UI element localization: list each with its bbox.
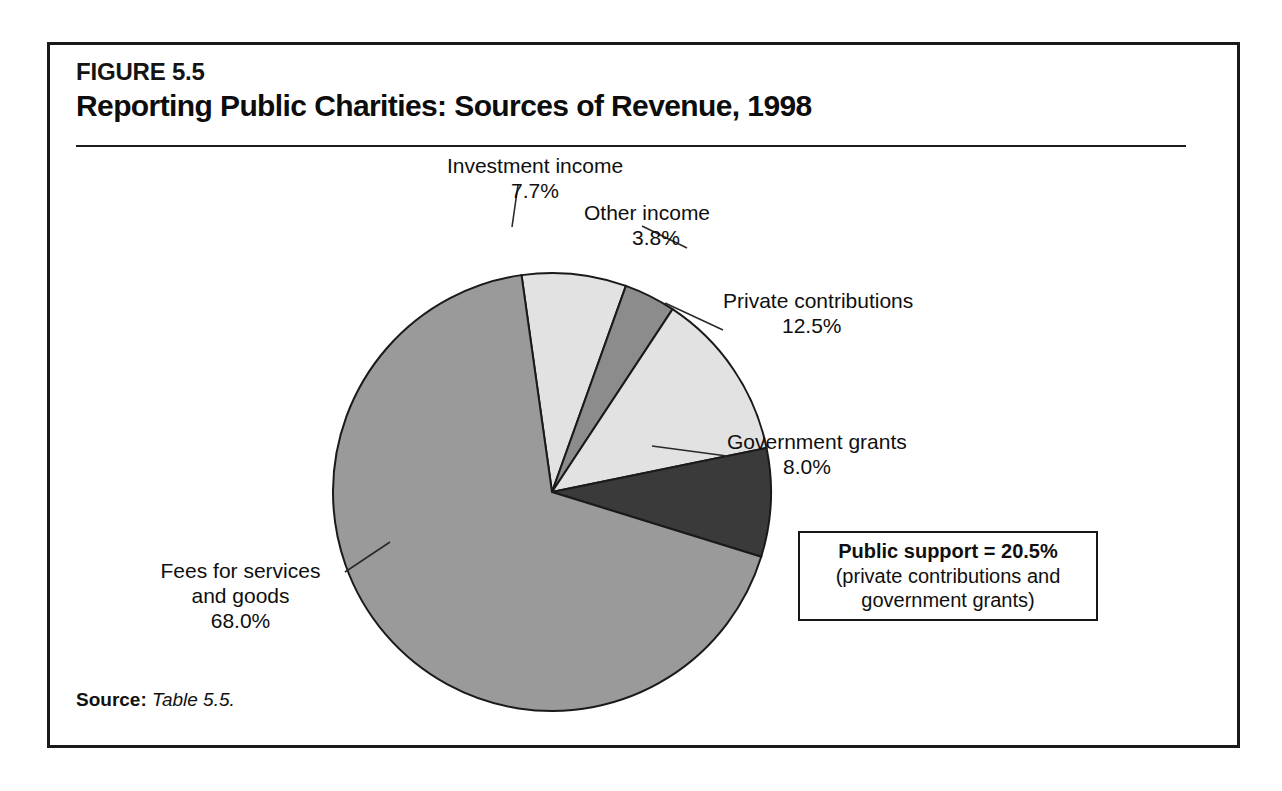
pie-label-investment: Investment income 7.7% (421, 153, 649, 203)
pie-label-other-income-name: Other income (584, 200, 784, 225)
callout-line-1: Public support = 20.5% (838, 539, 1058, 563)
pie-label-fees: Fees for services and goods 68.0% (138, 558, 343, 634)
pie-slice-group (333, 273, 771, 711)
pie-label-investment-name: Investment income (421, 153, 649, 178)
pie-label-fees-name-line1: Fees for services (138, 558, 343, 583)
figure-frame: FIGURE 5.5 Reporting Public Charities: S… (47, 42, 1240, 748)
callout-line-2: (private contributions and (836, 564, 1061, 588)
source-note: Source: Table 5.5. (76, 689, 235, 711)
pie-chart-svg (50, 45, 1243, 751)
source-value: Table 5.5. (152, 689, 235, 710)
pie-label-other-income-value: 3.8% (632, 225, 784, 250)
pie-label-government-grants-value: 8.0% (783, 454, 967, 479)
pie-chart-plot: Investment income 7.7% Other income 3.8%… (50, 45, 1243, 751)
pie-label-other-income: Other income 3.8% (584, 200, 784, 250)
pie-label-private-contributions-name: Private contributions (723, 288, 983, 313)
pie-label-private-contributions-value: 12.5% (782, 313, 983, 338)
public-support-callout: Public support = 20.5% (private contribu… (798, 531, 1098, 621)
pie-label-government-grants-name: Government grants (727, 429, 967, 454)
pie-label-government-grants: Government grants 8.0% (727, 429, 967, 479)
source-label: Source: (76, 689, 147, 710)
pie-label-private-contributions: Private contributions 12.5% (723, 288, 983, 338)
pie-label-fees-name-line2: and goods (138, 583, 343, 608)
callout-line-3: government grants) (861, 588, 1034, 612)
pie-label-fees-value: 68.0% (138, 608, 343, 633)
